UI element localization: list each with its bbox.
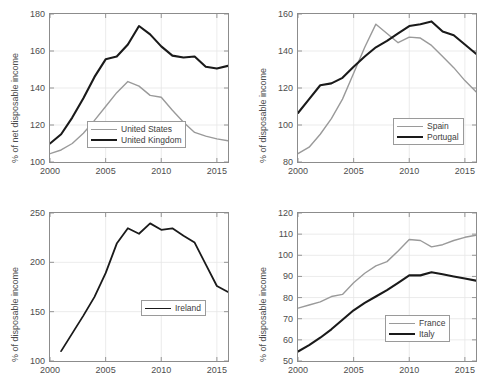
- legend-entry[interactable]: Italy: [389, 329, 445, 339]
- legend-label: United Kingdom: [121, 135, 181, 145]
- legend-label: United States: [121, 124, 172, 134]
- legend-entry[interactable]: France: [389, 318, 445, 328]
- legend-line-swatch: [145, 308, 171, 309]
- panel-france-italy-ytick-label: 80: [259, 293, 293, 303]
- legend-entry[interactable]: United Kingdom: [91, 135, 181, 145]
- panel-france-italy-ytick-label: 120: [259, 208, 293, 218]
- legend-entry[interactable]: Ireland: [145, 303, 201, 313]
- panel-france-italy-ytick-label: 100: [259, 250, 293, 260]
- panel-anglo-legend[interactable]: United StatesUnited Kingdom: [87, 121, 186, 148]
- legend-line-swatch: [91, 139, 117, 141]
- figure-canvas: % of net disposable income10012014016018…: [0, 0, 493, 392]
- panel-france-italy-xtick-label: 2015: [455, 365, 475, 375]
- panel-france-italy-legend[interactable]: FranceItaly: [385, 315, 450, 342]
- panel-iberia-legend[interactable]: SpainPortugal: [393, 118, 464, 145]
- legend-label: Italy: [419, 329, 435, 339]
- panel-france-italy-ytick-label: 90: [259, 271, 293, 281]
- legend-line-swatch: [389, 323, 415, 324]
- panel-france-italy-ytick-label: 70: [259, 314, 293, 324]
- legend-label: Spain: [427, 121, 449, 131]
- panel-france-italy-ytick-label: 110: [259, 229, 293, 239]
- legend-entry[interactable]: United States: [91, 124, 181, 134]
- legend-line-swatch: [389, 333, 415, 335]
- legend-line-swatch: [397, 126, 423, 127]
- legend-line-swatch: [397, 136, 423, 138]
- legend-label: France: [419, 318, 445, 328]
- legend-label: Ireland: [175, 303, 201, 313]
- legend-line-swatch: [91, 129, 117, 130]
- legend-entry[interactable]: Spain: [397, 121, 459, 131]
- legend-entry[interactable]: Portugal: [397, 132, 459, 142]
- panel-france-italy-ytick-label: 60: [259, 335, 293, 345]
- legend-label: Portugal: [427, 132, 459, 142]
- panel-france-italy-xtick-label: 2010: [399, 365, 419, 375]
- panel-france-italy-xtick-label: 2000: [288, 365, 308, 375]
- panel-ireland-legend[interactable]: Ireland: [141, 300, 206, 316]
- panel-france-italy: % of disposable income506070809010011012…: [0, 0, 493, 392]
- panel-france-italy-xtick-label: 2005: [344, 365, 364, 375]
